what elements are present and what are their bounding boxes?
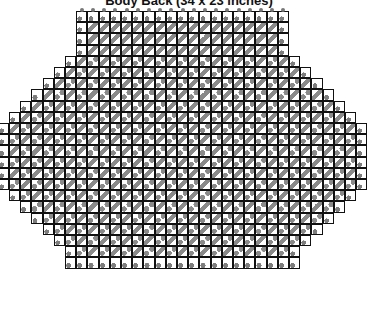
grid-cell [199,190,210,201]
grid-cell [323,179,334,190]
grid-cell [289,145,300,156]
grid-cell [345,112,356,123]
grid-cell [199,22,210,33]
grid-cell [110,45,121,56]
grid-cell [99,179,110,190]
grid-cell [211,168,222,179]
grid-cell [278,201,289,212]
grid-cell [255,67,266,78]
grid-cell [20,134,31,145]
grid-cell [356,168,367,179]
grid-cell [199,224,210,235]
grid-cell [110,112,121,123]
grid-cell [20,190,31,201]
grid-cell [132,45,143,56]
grid-cell [244,235,255,246]
grid-cell [255,201,266,212]
grid-cell [278,22,289,33]
grid-cell [199,56,210,67]
grid-cell [143,123,154,134]
grid-cell [222,78,233,89]
grid-cell [155,22,166,33]
grid-cell [76,235,87,246]
grid-cell [222,123,233,134]
grid-cell [211,190,222,201]
grid-cell [267,101,278,112]
grid-cell [233,45,244,56]
grid-cell [278,168,289,179]
grid-cell [99,246,110,257]
grid-cell [345,179,356,190]
grid-cell [311,213,322,224]
grid-cell [233,246,244,257]
grid-cell [54,213,65,224]
grid-cell [188,78,199,89]
grid-cell [87,112,98,123]
grid-cell [132,134,143,145]
grid-cell [121,246,132,257]
grid-cell [255,134,266,145]
grid-cell [166,45,177,56]
grid-cell [65,112,76,123]
grid-cell [121,78,132,89]
grid-cell [65,190,76,201]
grid-cell [323,213,334,224]
stitch-marker-icon [237,8,241,12]
grid-cell [166,112,177,123]
grid-cell [43,134,54,145]
grid-cell [166,145,177,156]
grid-cell [99,235,110,246]
grid-cell [76,67,87,78]
grid-cell [334,157,345,168]
grid-cell [199,235,210,246]
grid-cell [155,213,166,224]
grid-cell [0,168,9,179]
grid-cell [233,179,244,190]
grid-cell [177,213,188,224]
grid-cell [43,101,54,112]
grid-cell [76,213,87,224]
grid-cell [188,224,199,235]
grid-cell [233,11,244,22]
grid-cell [323,134,334,145]
grid-cell [300,168,311,179]
grid-cell [211,134,222,145]
grid-cell [244,45,255,56]
grid-cell [132,168,143,179]
grid-cell [300,101,311,112]
grid-cell [65,235,76,246]
grid-cell [76,33,87,44]
grid-cell [43,78,54,89]
grid-cell [267,145,278,156]
grid-cell [121,179,132,190]
grid-cell [43,201,54,212]
grid-cell [289,112,300,123]
grid-cell [233,112,244,123]
grid-cell [289,257,300,268]
grid-cell [323,157,334,168]
grid-cell [65,157,76,168]
grid-cell [54,224,65,235]
grid-cell [199,179,210,190]
grid-cell [31,201,42,212]
grid-cell [177,112,188,123]
grid-cell [54,168,65,179]
grid-cell [87,134,98,145]
grid-cell [132,246,143,257]
grid-cell [155,201,166,212]
grid-cell [188,157,199,168]
grid-cell [233,201,244,212]
grid-cell [155,78,166,89]
grid-cell [166,33,177,44]
grid-cell [211,257,222,268]
grid-cell [110,224,121,235]
grid-cell [199,257,210,268]
grid-cell [0,134,9,145]
grid-cell [177,168,188,179]
grid-cell [166,157,177,168]
grid-cell [188,89,199,100]
grid-cell [143,67,154,78]
grid-cell [155,190,166,201]
grid-cell [188,11,199,22]
grid-cell [233,33,244,44]
